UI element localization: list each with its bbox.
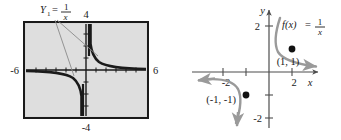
calc-callout-Y: Y: [40, 4, 47, 15]
plot-function-name: f(x): [282, 19, 297, 31]
calculator-screen-panel: Y 1 = 1 x 4 -4 -6 6: [0, 0, 170, 140]
calc-callout-label: Y 1 = 1 x: [40, 2, 71, 22]
plot-y-tick-label-neg2: -2: [253, 113, 262, 124]
plot-function-label: f(x) = 1 x: [282, 17, 325, 37]
coordinate-plot-svg: 2 -2 -2 2 y x (1, 1) (-1, -1) f(x) = 1: [170, 0, 341, 140]
plot-curve-negative-arrow-down: [237, 112, 238, 126]
plot-y-axis-label: y: [259, 5, 265, 16]
plot-x-tick-label-2: 2: [291, 77, 296, 88]
plot-point-neg1-neg1: [243, 92, 250, 99]
calc-xmax-label: 6: [153, 65, 158, 76]
calc-callout-denominator: x: [63, 12, 68, 22]
calc-callout-subscript: 1: [47, 10, 51, 18]
calc-callout-numerator: 1: [64, 2, 69, 12]
calculator-screen-svg: Y 1 = 1 x 4 -4 -6 6: [0, 0, 170, 140]
plot-x-axis-label: x: [307, 77, 313, 88]
plot-y-tick-label-2: 2: [255, 21, 260, 32]
figure-reciprocal-function: Y 1 = 1 x 4 -4 -6 6: [0, 0, 341, 140]
calc-ymax-label: 4: [83, 9, 89, 20]
plot-function-numerator: 1: [318, 17, 323, 27]
calc-ymin-label: -4: [82, 122, 91, 133]
plot-function-equals: =: [305, 19, 311, 30]
calc-callout-equals: =: [52, 4, 58, 15]
plot-function-denominator: x: [317, 27, 322, 37]
plot-point-label-1-1: (1, 1): [277, 56, 300, 68]
plot-point-label-neg1-neg1: (-1, -1): [206, 94, 236, 106]
coordinate-plot-panel: 2 -2 -2 2 y x (1, 1) (-1, -1) f(x) = 1: [170, 0, 341, 140]
calc-xmin-label: -6: [10, 65, 19, 76]
plot-point-1-1: [289, 46, 296, 53]
